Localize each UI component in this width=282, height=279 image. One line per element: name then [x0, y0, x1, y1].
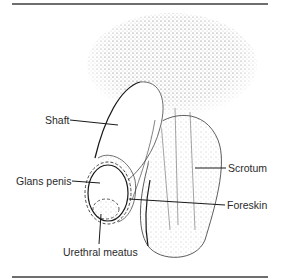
- label-glans-penis: Glans penis: [16, 175, 71, 187]
- urethral-meatus-shape: [93, 199, 119, 219]
- bottom-rule: [12, 276, 268, 278]
- label-urethral-meatus: Urethral meatus: [63, 246, 138, 258]
- anatomy-illustration: [0, 0, 282, 279]
- label-foreskin: Foreskin: [227, 199, 267, 211]
- label-scrotum: Scrotum: [228, 162, 267, 174]
- pubic-hair-stipple: [80, 10, 260, 125]
- label-shaft: Shaft: [45, 114, 70, 126]
